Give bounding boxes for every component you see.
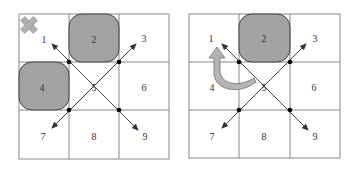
corner-dot [288,60,293,65]
cell-label-3: 3 [142,33,147,44]
cross-icon [16,12,41,37]
cell-label-4: 4 [40,82,45,93]
cell-label-8: 8 [92,131,97,142]
diagram-canvas: 1 2 3 4 5 6 7 8 9 1 2 3 4 5 6 7 8 9 [0,0,355,172]
arrow-to-7 [222,86,264,128]
right-grid-panel: 1 2 3 4 5 6 7 8 9 [189,14,340,158]
cell-label-3: 3 [313,33,318,44]
cell-label-5: 5 [92,82,97,93]
cell-label-1: 1 [42,34,47,45]
cell-label-7: 7 [41,131,46,142]
cell-label-9: 9 [313,131,318,142]
corner-dot [67,60,72,65]
cell-label-6: 6 [142,82,147,93]
corner-dot [117,108,122,113]
left-grid-panel: 1 2 3 4 5 6 7 8 9 [16,12,169,159]
arrow-to-9 [94,86,138,130]
cell-label-8: 8 [262,131,267,142]
cell-label-4: 4 [210,82,215,93]
cell-label-1: 1 [209,33,214,44]
cell-label-7: 7 [210,131,215,142]
cell-label-2: 2 [92,34,97,45]
corner-dot [237,108,242,113]
corner-dot [237,60,242,65]
cell-label-6: 6 [312,82,317,93]
cell-label-5: 5 [262,82,267,93]
cell-label-9: 9 [143,131,148,142]
arrow-to-9 [264,86,308,130]
cell-label-2: 2 [262,33,267,44]
corner-dot [117,60,122,65]
corner-dot [67,108,72,113]
corner-dot [288,108,293,113]
